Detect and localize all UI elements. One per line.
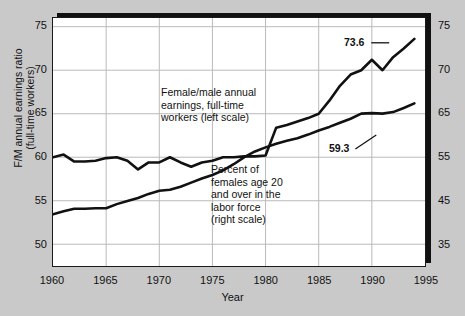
right-tick-35: 35 bbox=[438, 238, 462, 250]
right-tick-45: 45 bbox=[438, 194, 462, 206]
left-tick-55: 55 bbox=[25, 194, 47, 206]
series-canvas bbox=[53, 18, 425, 266]
series2-annotation: Percent of females age 20 and over in th… bbox=[211, 163, 283, 226]
left-axis-title-line1: F/M annual earnings ratio bbox=[12, 48, 24, 167]
series2-end-label: 59.3 bbox=[329, 142, 349, 154]
x-tick-1990: 1990 bbox=[353, 274, 393, 286]
x-tick-1970: 1970 bbox=[139, 274, 179, 286]
series2-leader bbox=[355, 135, 376, 149]
left-tick-75: 75 bbox=[25, 19, 47, 31]
x-tick-1995: 1995 bbox=[406, 274, 446, 286]
x-tick-1985: 1985 bbox=[299, 274, 339, 286]
left-axis-title: F/M annual earnings ratio (full-time wor… bbox=[12, 38, 36, 178]
right-tick-75: 75 bbox=[438, 19, 462, 31]
left-tick-50: 50 bbox=[25, 238, 47, 250]
x-tick-1960: 1960 bbox=[32, 274, 72, 286]
series1-end-label: 73.6 bbox=[344, 36, 364, 48]
plot-area: Female/male annual earnings, full-time w… bbox=[52, 17, 426, 267]
x-tick-1975: 1975 bbox=[192, 274, 232, 286]
right-tick-55: 55 bbox=[438, 150, 462, 162]
gridlines bbox=[53, 18, 425, 266]
left-axis-title-line2: (full-time workers) bbox=[24, 66, 36, 149]
x-tick-1980: 1980 bbox=[246, 274, 286, 286]
series1-annotation: Female/male annual earnings, full-time w… bbox=[161, 86, 256, 124]
x-tick-1965: 1965 bbox=[85, 274, 125, 286]
chart-figure: Female/male annual earnings, full-time w… bbox=[0, 0, 465, 316]
x-axis-title: Year bbox=[0, 291, 465, 303]
right-tick-70: 70 bbox=[438, 63, 462, 75]
right-tick-65: 65 bbox=[438, 106, 462, 118]
